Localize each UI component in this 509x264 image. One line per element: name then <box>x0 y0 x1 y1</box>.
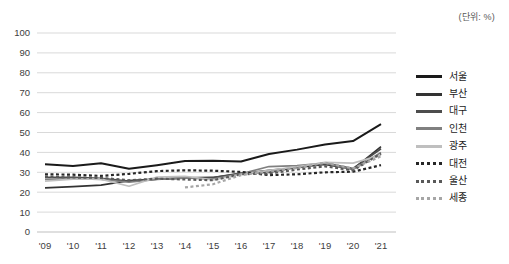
legend-swatch-icon <box>416 75 442 78</box>
x-axis-tick-label: '18 <box>291 240 303 251</box>
legend-item-인천[interactable]: 인천 <box>416 120 508 137</box>
y-axis-tick-label: 40 <box>19 147 30 158</box>
x-axis-tick-label: '17 <box>263 240 275 251</box>
x-axis-tick-label: '12 <box>123 240 135 251</box>
legend-label: 세종 <box>449 193 467 203</box>
legend-item-세종[interactable]: 세종 <box>416 190 508 207</box>
legend-item-대전[interactable]: 대전 <box>416 155 508 172</box>
legend-swatch-icon <box>416 110 442 113</box>
legend-swatch-icon <box>416 93 442 96</box>
x-axis-tick-label: '19 <box>319 240 331 251</box>
y-axis-tick-label: 0 <box>25 226 30 237</box>
legend-item-광주[interactable]: 광주 <box>416 138 508 155</box>
legend-item-서울[interactable]: 서울 <box>416 68 508 85</box>
y-axis-tick-label: 100 <box>14 27 30 38</box>
legend-swatch-icon <box>416 197 442 200</box>
legend-item-부산[interactable]: 부산 <box>416 85 508 102</box>
legend-swatch-icon <box>416 127 442 130</box>
legend-label: 대전 <box>449 159 467 169</box>
y-axis-tick-label: 70 <box>19 87 30 98</box>
y-axis-tick-label: 20 <box>19 187 30 198</box>
gridlines <box>37 33 396 232</box>
legend-swatch-icon <box>416 162 442 165</box>
legend-swatch-icon <box>416 145 442 148</box>
legend-label: 서울 <box>449 72 467 82</box>
legend-swatch-icon <box>416 180 442 183</box>
legend-label: 광주 <box>449 141 467 151</box>
x-axis-tick-label: '21 <box>375 240 387 251</box>
x-axis-tick-label: '14 <box>179 240 191 251</box>
x-axis-tick-label: '09 <box>39 240 51 251</box>
line-chart: (단위: %) 0102030405060708090100 '09'10'11… <box>0 0 509 264</box>
chart-legend: 서울부산대구인천광주대전울산세종 <box>416 68 508 207</box>
legend-label: 부산 <box>449 89 467 99</box>
legend-label: 대구 <box>449 106 467 116</box>
y-axis-tick-label: 90 <box>19 47 30 58</box>
y-axis-tick-labels: 0102030405060708090100 <box>14 27 30 237</box>
y-axis-tick-label: 10 <box>19 207 30 218</box>
x-axis-tick-label: '10 <box>67 240 79 251</box>
y-axis-tick-label: 50 <box>19 127 30 138</box>
x-axis-tick-label: '16 <box>235 240 247 251</box>
x-axis-tick-label: '13 <box>151 240 163 251</box>
x-axis-tick-label: '11 <box>95 240 107 251</box>
legend-label: 인천 <box>449 124 467 134</box>
legend-label: 울산 <box>449 176 467 186</box>
x-axis-tick-label: '20 <box>347 240 359 251</box>
y-axis-tick-label: 80 <box>19 67 30 78</box>
x-axis-tick-label: '15 <box>207 240 219 251</box>
y-axis-tick-label: 30 <box>19 167 30 178</box>
x-axis-tick-labels: '09'10'11'12'13'14'15'16'17'18'19'20'21 <box>39 240 387 251</box>
legend-item-울산[interactable]: 울산 <box>416 172 508 189</box>
legend-item-대구[interactable]: 대구 <box>416 103 508 120</box>
data-series-group <box>45 124 381 188</box>
y-axis-tick-label: 60 <box>19 107 30 118</box>
